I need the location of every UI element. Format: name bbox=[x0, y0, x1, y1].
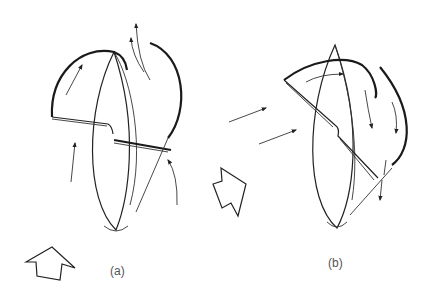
sail-body-b bbox=[313, 45, 353, 228]
wind-block-arrow-a-icon bbox=[26, 247, 75, 280]
panel-b-diagram bbox=[213, 45, 407, 228]
flow-arrow bbox=[229, 108, 266, 122]
flow-arrow bbox=[136, 24, 150, 80]
diagram-canvas bbox=[0, 0, 429, 297]
panel-label-a: (a) bbox=[110, 264, 125, 278]
flow-arrow bbox=[392, 102, 397, 133]
leech-arc-a bbox=[150, 43, 181, 138]
flow-arrow bbox=[71, 143, 75, 182]
flow-arrow bbox=[306, 74, 343, 82]
flow-arrow bbox=[66, 65, 82, 95]
leech-arc-b bbox=[380, 67, 407, 165]
flow-arrow bbox=[365, 90, 372, 128]
flow-arrow bbox=[168, 160, 177, 205]
panel-a-diagram bbox=[26, 24, 181, 280]
spinnaker-arc-a bbox=[52, 51, 127, 117]
flow-arrow bbox=[259, 130, 296, 144]
boom-a bbox=[114, 140, 171, 150]
flow-arrow bbox=[380, 180, 382, 200]
wind-block-arrow-b-icon bbox=[213, 168, 246, 216]
panel-label-b: (b) bbox=[328, 256, 343, 270]
